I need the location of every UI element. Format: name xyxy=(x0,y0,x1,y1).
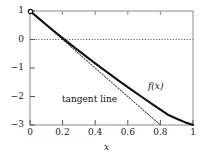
x-tick-label-0p6: 0.6 xyxy=(115,128,140,137)
y-tick-label-0: 0 xyxy=(2,35,24,44)
x-axis-ticks xyxy=(30,120,193,125)
start-point-marker xyxy=(28,9,32,13)
y-tick-label-neg1: −1 xyxy=(2,63,24,72)
x-tick-label-0p4: 0.4 xyxy=(83,128,108,137)
fx-curve-label: f(x) xyxy=(148,82,163,91)
figure: 1 0 −1 −2 −3 0 0.2 0.4 0.6 0.8 1 f(x) ta… xyxy=(0,0,205,160)
x-tick-label-0p8: 0.8 xyxy=(148,128,173,137)
x-tick-label-0p2: 0.2 xyxy=(50,128,75,137)
y-tick-label-neg2: −2 xyxy=(2,92,24,101)
fx-curve-path xyxy=(30,11,193,125)
x-axis-title: x xyxy=(104,143,109,152)
y-axis-ticks xyxy=(30,11,35,125)
x-tick-label-0: 0 xyxy=(20,128,40,137)
x-axis-top-ticks xyxy=(63,11,161,15)
tangent-line-label: tangent line xyxy=(62,95,117,104)
x-tick-label-1: 1 xyxy=(186,128,200,137)
y-tick-label-1: 1 xyxy=(2,6,24,15)
plot-frame xyxy=(30,11,193,125)
